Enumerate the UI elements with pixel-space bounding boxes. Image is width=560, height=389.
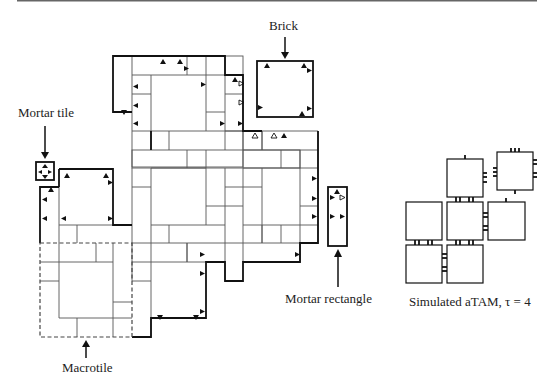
assembly-outline bbox=[40, 56, 318, 337]
glue-markers bbox=[42, 59, 317, 320]
mortar-tile-label: Mortar tile bbox=[18, 105, 74, 121]
simulated-atam bbox=[406, 148, 537, 283]
macrotile-outline bbox=[40, 243, 132, 337]
figure-canvas bbox=[0, 0, 560, 389]
assembly-grid bbox=[40, 56, 318, 337]
simulated-atam-caption: Simulated aTAM, τ = 4 bbox=[409, 294, 531, 310]
mortar-rectangle bbox=[328, 187, 347, 287]
mortar-tile bbox=[36, 126, 54, 180]
brick bbox=[257, 37, 313, 117]
macrotile-label: Macrotile bbox=[62, 360, 113, 376]
brick-label: Brick bbox=[269, 18, 298, 34]
mortar-rectangle-label: Mortar rectangle bbox=[285, 291, 372, 307]
